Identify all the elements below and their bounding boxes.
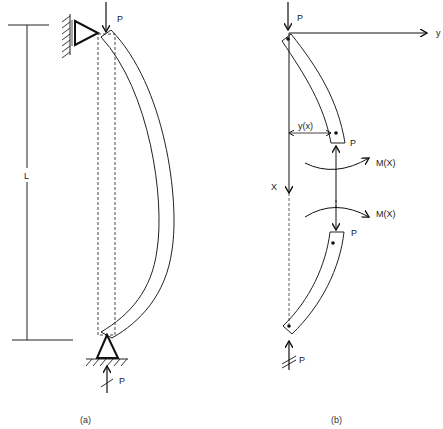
lower-bottom-load-label: P: [299, 355, 305, 365]
bottom-load-label: P: [119, 376, 125, 386]
panel-a-caption: (a): [80, 415, 91, 425]
panel-b-caption: (b): [331, 415, 342, 425]
upper-moment-label: M(X): [376, 158, 396, 168]
upper-cut-dot: [334, 131, 338, 135]
x-axis-label: X: [271, 182, 277, 192]
bottom-pin-support: [86, 335, 128, 366]
panel-a: L P: [8, 2, 174, 425]
top-pin-support: [62, 14, 98, 58]
buckling-column-diagram: L P: [0, 0, 443, 429]
upper-cut-load-label: P: [350, 138, 356, 148]
length-dimension: [8, 25, 73, 340]
upper-pin-dot: [286, 37, 290, 41]
undeformed-column-outline: [98, 34, 115, 335]
upper-moment-arrow: [305, 158, 369, 169]
lower-cut-dot: [331, 241, 335, 245]
bottom-reaction-arrow: [101, 366, 113, 393]
upper-column-segment: [282, 34, 345, 143]
top-load-label: P: [117, 14, 123, 24]
lower-moment-arrow: [305, 208, 369, 218]
length-label: L: [24, 171, 29, 181]
buckled-column: [101, 30, 174, 338]
lower-column-segment: [283, 232, 344, 334]
panel-b: y X P y(x) P M(X) M(X) P: [271, 2, 441, 425]
lower-cut-load-label: P: [351, 228, 357, 238]
lower-bottom-load-arrow: [282, 341, 296, 370]
lower-pin-dot: [287, 324, 291, 328]
lower-moment-label: M(X): [376, 209, 396, 219]
y-axis-label: y: [436, 28, 441, 38]
deflection-label: y(x): [298, 121, 313, 131]
upper-top-load-label: P: [297, 13, 303, 23]
